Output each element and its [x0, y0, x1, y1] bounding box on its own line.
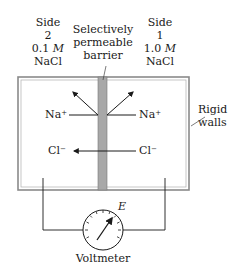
walls-leader-line [191, 117, 205, 126]
na-ion-side2: Na+ [45, 109, 67, 121]
diagram-canvas [0, 0, 246, 276]
potential-symbol: E [116, 200, 128, 213]
permeable-barrier [98, 77, 107, 190]
cl-ion-side1: Cl− [139, 145, 157, 157]
cl-ion-side2: Cl− [48, 145, 66, 157]
voltmeter-dial [83, 210, 123, 250]
na-ion-side1: Na+ [139, 109, 161, 121]
voltmeter-label: Voltmeter [70, 252, 136, 265]
